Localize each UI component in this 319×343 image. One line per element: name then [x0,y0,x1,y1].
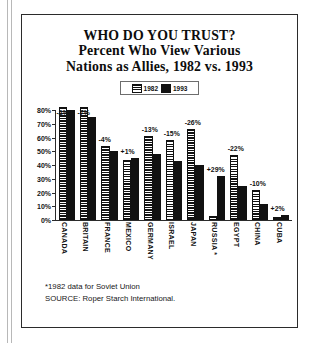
bar-group: +1% [123,110,139,220]
x-axis-label: ISRAEL [168,222,175,249]
y-axis-tick-label: 80% [24,107,51,114]
bar-group: -7% [80,110,96,220]
footnote-source: SOURCE: Roper Starch International. [45,293,273,305]
x-axis-label: BRITAIN [82,222,89,252]
bar-group: +29% [209,110,225,220]
bar-delta-label: -22% [228,144,244,153]
bar-1982 [187,129,195,220]
bar-1982 [80,107,88,220]
bar-1982 [144,136,152,220]
bar-group: -2% [59,110,75,220]
y-axis-tick-mark [52,124,55,125]
y-axis-tick-label: 0% [24,217,51,224]
bar-group: +2% [273,110,289,220]
x-axis-line [55,220,292,221]
chart-title: WHO DO YOU TRUST? Percent Who View Vario… [22,15,297,74]
y-axis-tick-mark [52,193,55,194]
bar-group: -22% [230,110,246,220]
title-line-3: Nations as Allies, 1982 vs. 1993 [29,59,290,74]
title-line-1: WHO DO YOU TRUST? [29,28,290,43]
y-axis-tick-label: 50% [24,148,51,155]
x-axis-label: CHINA [254,222,261,246]
bar-groups: -2%-7%-4%+1%-13%-15%-26%+29%-22%-10%+2% [56,110,292,220]
legend-label-1982: 1982 [144,85,158,92]
bar-delta-label: +2% [271,204,285,213]
bar-1993 [110,151,118,220]
x-axis-label: CUBA [276,222,283,243]
bar-1993 [67,110,75,220]
x-axis-category-labels: CANADABRITAINFRANCEMEXICOGERMANYISRAELJA… [56,222,292,270]
bar-delta-label: +29% [206,165,224,174]
x-axis-label: JAPAN [190,222,197,247]
bar-1982 [101,146,109,220]
x-axis-label: MEXICO [125,222,132,251]
bar-1993 [174,161,182,220]
bar-1993 [153,154,161,220]
striped-swatch-icon [132,84,142,93]
y-axis-tick-label: 60% [24,134,51,141]
bar-1982 [166,140,174,220]
bar-delta-label: -13% [142,125,158,134]
bar-delta-label: +1% [121,147,135,156]
x-axis-label: EGYPT [233,222,240,247]
legend-entry-1993: 1993 [161,84,187,93]
bar-1982 [252,190,260,220]
y-axis-tick-label: 40% [24,162,51,169]
bar-1993 [88,117,96,220]
bar-1982 [230,155,238,220]
chart-legend: 1982 1993 [120,81,199,95]
y-axis-tick-mark [52,206,55,207]
footnote-soviet-union: *1982 data for Soviet Union [45,281,273,293]
bar-delta-label: -15% [163,129,179,138]
bar-group: -26% [187,110,203,220]
scan-gutter-artifact [0,0,16,343]
y-axis-tick-label: 20% [24,189,51,196]
title-line-2: Percent Who View Various [29,43,290,58]
bar-1993 [131,158,139,220]
y-axis-tick-label: 70% [24,120,51,127]
bar-1993 [238,186,246,220]
x-axis-label: FRANCE [104,222,111,253]
y-axis-tick-mark [52,165,55,166]
footnotes: *1982 data for Soviet Union SOURCE: Rope… [45,281,280,306]
gutter-line-outer [7,0,8,343]
bar-1982 [209,216,217,220]
bar-1993 [217,176,225,220]
chart-panel: WHO DO YOU TRUST? Percent Who View Vario… [21,14,298,328]
legend-label-1993: 1993 [173,85,187,92]
y-axis-tick-mark [52,179,55,180]
bar-1993 [195,165,203,220]
bar-1993 [260,204,268,221]
bar-delta-label: -4% [99,135,111,144]
y-axis-tick-label: 10% [24,203,51,210]
x-axis-label: GERMANY [147,222,154,260]
bar-delta-label: -7% [78,108,90,117]
solid-black-swatch-icon [161,84,171,93]
bar-group: -15% [166,110,182,220]
y-axis-tick-labels: 80%70%60%50%40%30%20%10%0% [24,110,51,220]
x-axis-label: CANADA [61,222,68,254]
bar-group: -10% [252,110,268,220]
legend-entry-1982: 1982 [132,84,158,93]
y-axis-tick-mark [52,138,55,139]
bar-group: -13% [144,110,160,220]
y-axis-tick-mark [52,151,55,152]
bar-1982 [59,107,67,220]
y-axis-tick-mark [52,110,55,111]
x-axis-label: RUSSIA * [211,222,218,255]
bar-1982 [273,217,281,220]
bar-delta-label: -10% [249,179,265,188]
gutter-line-inner [11,0,12,343]
bar-1993 [281,215,289,221]
bar-group: -4% [101,110,117,220]
y-axis-tick-label: 30% [24,175,51,182]
bar-1982 [123,160,131,221]
plot-area: 80%70%60%50%40%30%20%10%0% -2%-7%-4%+1%-… [22,110,299,270]
bar-delta-label: -2% [56,108,68,117]
bar-delta-label: -26% [185,118,201,127]
y-axis-tick-mark [52,220,55,221]
